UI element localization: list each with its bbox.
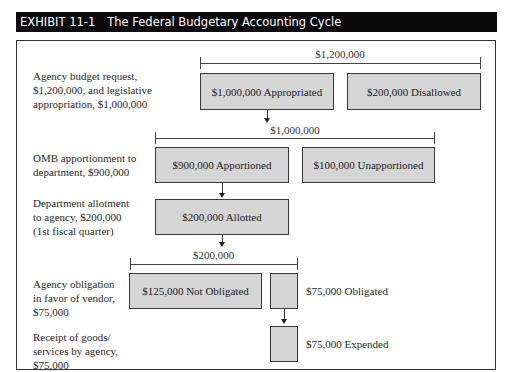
not-obligated-box: $125,000 Not Obligated	[129, 273, 262, 309]
step-4-description: Agency obligation in favor of vendor, $7…	[33, 277, 115, 319]
step-1-bracket-total: $1,200,000	[200, 48, 480, 60]
step-1-bracket-tick-right	[480, 57, 481, 69]
exhibit-header: EXHIBIT 11-1The Federal Budgetary Accoun…	[16, 12, 497, 32]
step-1-description: Agency budget request, $1,200,000, and l…	[33, 69, 152, 111]
step-4-bracket-tick-right	[297, 258, 298, 270]
step-3-description: Department allotment to agency, $200,000…	[33, 196, 129, 238]
arrow-down-icon	[219, 242, 225, 247]
step-2-description: OMB apportionment to department, $900,00…	[33, 151, 136, 179]
arrow-down-icon	[219, 193, 225, 198]
arrow-down-icon	[264, 118, 270, 123]
exhibit-number: EXHIBIT 11-1	[20, 15, 95, 29]
step-4-bracket-line	[130, 264, 297, 265]
expended-box	[270, 326, 298, 362]
appropriated-box: $1,000,000 Appropriated	[200, 73, 334, 110]
disallowed-box: $200,000 Disallowed	[347, 73, 481, 110]
step-1-bracket-tick-left	[200, 57, 201, 69]
arrow-down-icon	[281, 319, 287, 324]
step-4-bracket-total: $200,000	[130, 249, 297, 261]
unapportioned-box: $100,000 Unapportioned	[302, 147, 435, 183]
exhibit-title: The Federal Budgetary Accounting Cycle	[107, 15, 341, 29]
expended-label: $75,000 Expended	[306, 337, 388, 351]
step-5-description: Receipt of goods/ services by agency, $7…	[33, 330, 118, 372]
step-2-bracket-line	[155, 138, 435, 139]
step-2-bracket-tick-right	[434, 132, 435, 144]
obligated-label: $75,000 Obligated	[306, 284, 388, 298]
step-1-bracket-line	[200, 63, 480, 64]
allotted-box: $200,000 Allotted	[155, 199, 289, 235]
step-2-bracket-tick-left	[155, 132, 156, 144]
apportioned-box: $900,000 Apportioned	[155, 147, 289, 183]
obligated-box	[270, 273, 298, 309]
step-4-bracket-tick-left	[130, 258, 131, 270]
step-2-bracket-total: $1,000,000	[155, 124, 435, 136]
